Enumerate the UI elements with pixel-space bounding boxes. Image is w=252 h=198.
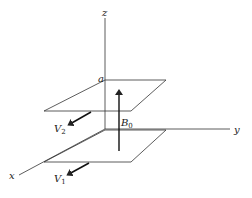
- velocity-label-upper: V2: [54, 123, 66, 136]
- diagram-canvas: z y x a B0 V2 V1: [0, 0, 252, 198]
- velocity-arrow-lower: [69, 163, 89, 174]
- corner-label-a: a: [98, 73, 104, 84]
- x-axis-label: x: [9, 170, 15, 181]
- velocity-arrow-upper: [70, 112, 91, 124]
- y-axis-label: y: [233, 124, 240, 135]
- z-axis-label: z: [101, 7, 108, 18]
- velocity-label-lower: V1: [54, 173, 66, 186]
- field-label: B0: [120, 117, 133, 130]
